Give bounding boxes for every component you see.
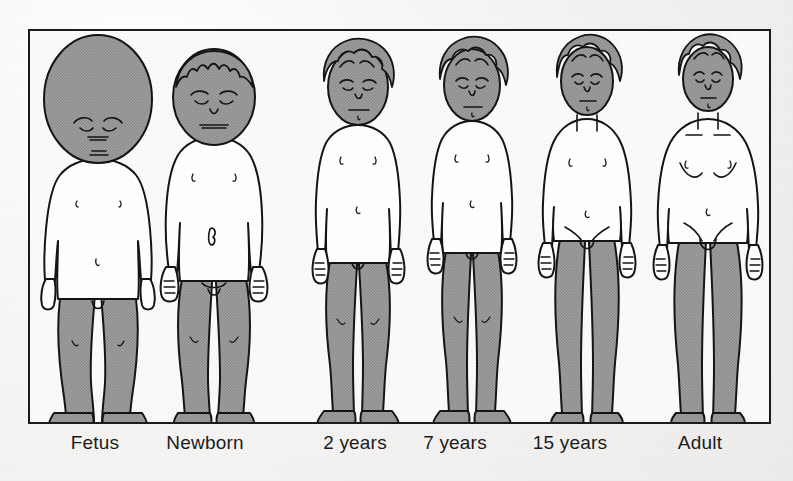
figure-2-years	[313, 39, 405, 422]
caption-label-2-years: 2 years	[323, 432, 387, 454]
figure-15-years	[539, 35, 636, 422]
caption-label-15-years: 15 years	[533, 432, 607, 454]
caption-row: Fetus Newborn 2 years 7 years 15 years A…	[28, 432, 771, 466]
figure-frame: .outline{fill:#ffffff;stroke:#141414;str…	[28, 29, 771, 424]
caption-label-fetus: Fetus	[71, 432, 120, 454]
body-proportion-figure: .outline{fill:#ffffff;stroke:#141414;str…	[30, 31, 769, 422]
caption-label-7-years: 7 years	[423, 432, 487, 454]
caption-label-adult: Adult	[678, 432, 722, 454]
figure-7-years	[428, 37, 517, 422]
figure-newborn	[161, 49, 268, 422]
figure-fetus	[41, 35, 155, 422]
caption-label-newborn: Newborn	[166, 432, 243, 454]
figure-adult	[654, 34, 763, 422]
